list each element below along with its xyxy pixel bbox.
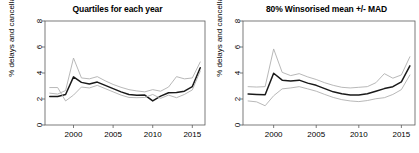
- series-line: [50, 71, 201, 101]
- ytick-label: 4: [35, 70, 44, 75]
- chart-panel-right: 80% Winsorised mean +/- MAD % delays and…: [210, 0, 419, 153]
- xtick-label: 2010: [144, 130, 162, 139]
- ytick-label: 0: [35, 122, 44, 127]
- xtick-label: 2015: [392, 130, 410, 139]
- series-line: [248, 66, 410, 95]
- series-line: [248, 49, 410, 88]
- xtick-label: 2015: [183, 130, 201, 139]
- series-line: [50, 58, 201, 94]
- ytick-label: 8: [35, 18, 44, 23]
- ytick-label: 0: [233, 122, 242, 127]
- xtick-label: 2005: [307, 130, 325, 139]
- chart-panel-left: Quartiles for each year % delays and can…: [0, 0, 209, 153]
- panel-right-plot: 024682000200520102015: [210, 0, 419, 153]
- ytick-label: 6: [35, 44, 44, 49]
- figure-root: Quartiles for each year % delays and can…: [0, 0, 419, 153]
- panel-left-plot: 024682000200520102015: [0, 0, 209, 153]
- xtick-label: 2005: [104, 130, 122, 139]
- ytick-label: 8: [233, 18, 242, 23]
- ytick-label: 6: [233, 44, 242, 49]
- ytick-label: 2: [35, 96, 44, 101]
- ytick-label: 4: [233, 70, 242, 75]
- xtick-label: 2000: [265, 130, 283, 139]
- ytick-label: 2: [233, 96, 242, 101]
- xtick-label: 2010: [350, 130, 368, 139]
- xtick-label: 2000: [65, 130, 83, 139]
